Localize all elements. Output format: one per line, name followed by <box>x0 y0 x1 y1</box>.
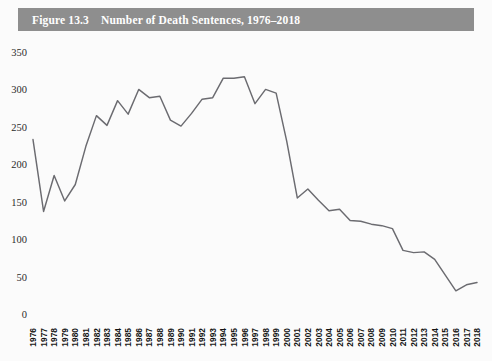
x-axis-tick-label: 2008 <box>366 328 376 347</box>
x-axis-tick-label: 1997 <box>250 328 260 347</box>
x-axis-tick-label: 2007 <box>356 328 366 347</box>
x-axis-tick-label: 2016 <box>451 328 461 347</box>
x-axis-tick-label: 1999 <box>271 328 281 347</box>
y-axis-tick-label: 100 <box>11 234 27 245</box>
x-axis-tick-label: 2009 <box>377 328 387 347</box>
x-axis-tick-label: 2000 <box>282 328 292 347</box>
y-axis-tick-labels: 050100150200250300350 <box>11 47 27 320</box>
figure-page: Figure 13.3 Number of Death Sentences, 1… <box>0 0 492 361</box>
x-axis-tick-label: 1980 <box>70 328 80 347</box>
x-axis-tick-label: 1979 <box>60 328 70 347</box>
x-axis-tick-label: 2001 <box>292 328 302 347</box>
death-sentences-line <box>33 77 477 291</box>
x-axis-tick-label: 2010 <box>388 328 398 347</box>
x-axis-tick-label: 1987 <box>144 328 154 347</box>
x-axis-tick-labels: 1976197719781979198019811982198319841985… <box>28 328 482 347</box>
x-axis-tick-label: 2015 <box>440 328 450 347</box>
x-axis-tick-label: 1998 <box>261 328 271 347</box>
x-axis-tick-label: 2013 <box>419 328 429 347</box>
x-axis-tick-label: 1991 <box>187 328 197 347</box>
x-axis-tick-label: 2003 <box>314 328 324 347</box>
x-axis-tick-label: 1984 <box>113 328 123 347</box>
x-axis-tick-label: 1982 <box>92 328 102 347</box>
x-axis-tick-label: 1996 <box>240 328 250 347</box>
x-axis-tick-label: 2014 <box>430 328 440 347</box>
x-axis-tick-label: 1978 <box>49 328 59 347</box>
y-axis-tick-label: 350 <box>11 47 27 58</box>
x-axis-tick-label: 2017 <box>462 328 472 347</box>
x-axis-tick-label: 2006 <box>345 328 355 347</box>
x-axis-tick-label: 2011 <box>398 328 408 347</box>
y-axis-tick-label: 200 <box>11 159 27 170</box>
page-title: Figure 13.3 Number of Death Sentences, 1… <box>18 14 300 26</box>
figure-title-bar: Figure 13.3 Number of Death Sentences, 1… <box>18 8 474 31</box>
y-axis-tick-label: 150 <box>11 197 27 208</box>
x-axis-tick-label: 1981 <box>81 328 91 347</box>
x-axis-tick-label: 2018 <box>472 328 482 347</box>
x-axis-tick-label: 1989 <box>166 328 176 347</box>
x-axis-tick-label: 1976 <box>28 328 38 347</box>
x-axis-tick-label: 1988 <box>155 328 165 347</box>
y-axis-tick-label: 0 <box>22 309 27 320</box>
x-axis-tick-label: 1994 <box>218 328 228 347</box>
x-axis-tick-label: 1990 <box>176 328 186 347</box>
x-axis-tick-label: 1977 <box>39 328 49 347</box>
line-chart: 050100150200250300350 197619771978197919… <box>0 31 492 361</box>
x-axis-tick-label: 2002 <box>303 328 313 347</box>
x-axis-tick-label: 1995 <box>229 328 239 347</box>
x-axis-tick-label: 2004 <box>324 328 334 347</box>
y-axis-tick-label: 300 <box>11 84 27 95</box>
x-axis-tick-label: 1986 <box>134 328 144 347</box>
y-axis-tick-label: 250 <box>11 122 27 133</box>
x-axis-tick-label: 1992 <box>197 328 207 347</box>
x-axis-tick-label: 1993 <box>208 328 218 347</box>
x-axis-tick-label: 1985 <box>123 328 133 347</box>
y-axis-tick-label: 50 <box>17 272 28 283</box>
x-axis-tick-label: 2012 <box>409 328 419 347</box>
chart-plot-area: 050100150200250300350 197619771978197919… <box>0 31 492 361</box>
x-axis-tick-label: 2005 <box>335 328 345 347</box>
x-axis-tick-label: 1983 <box>102 328 112 347</box>
